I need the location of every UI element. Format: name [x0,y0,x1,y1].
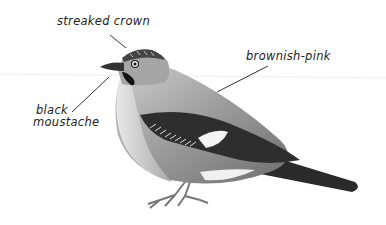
leader-line-moustache [72,77,109,112]
bird-beak [100,63,124,72]
leader-line-pink [217,66,268,92]
bird-legs [148,182,208,208]
leader-line-crown [110,35,126,48]
label-brownish-pink: brownish-pink [246,50,331,62]
label-streaked-crown: streaked crown [57,15,150,27]
label-moustache: moustache [33,116,99,128]
